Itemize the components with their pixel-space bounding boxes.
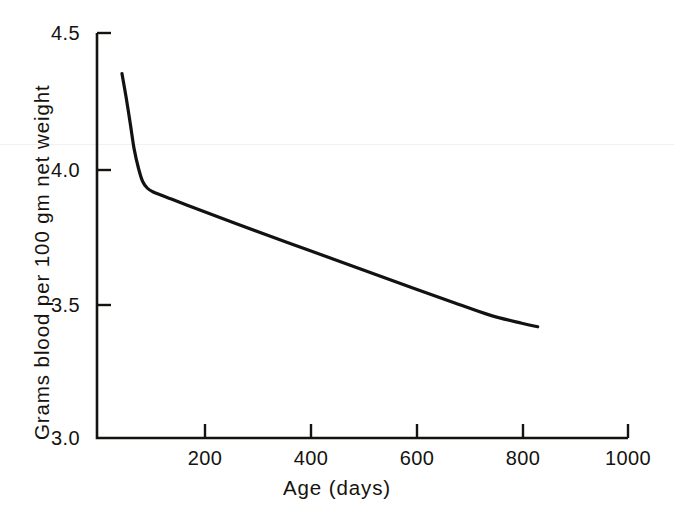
x-axis-ticks <box>205 424 628 438</box>
x-axis-title: Age (days) <box>0 476 674 500</box>
x-tick-label-400: 400 <box>271 447 351 470</box>
y-axis-ticks <box>97 33 111 305</box>
series-line-blood-volume <box>122 74 538 327</box>
axis-spines <box>97 33 628 438</box>
x-tick-label-800: 800 <box>483 447 563 470</box>
plot-canvas <box>0 0 674 516</box>
chart-figure: 4.5 4.0 3.5 3.0 200 400 600 800 1000 Age… <box>0 0 674 516</box>
x-tick-label-1000: 1000 <box>588 447 668 470</box>
x-tick-label-200: 200 <box>165 447 245 470</box>
data-series-group <box>122 74 538 327</box>
x-tick-label-600: 600 <box>377 447 457 470</box>
y-axis-title: Grams blood per 100 gm net weight <box>30 0 58 440</box>
axes-lines <box>97 33 628 438</box>
